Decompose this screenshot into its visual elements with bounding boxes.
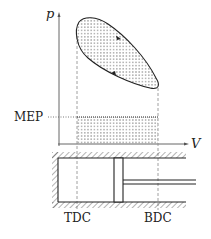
tdc-label: TDC bbox=[64, 211, 91, 225]
y-axis-label: p bbox=[46, 6, 55, 21]
bdc-label: BDC bbox=[144, 211, 172, 225]
mep-label: MEP bbox=[14, 110, 43, 124]
x-axis-label: V bbox=[191, 136, 202, 151]
pv-diagram: p V MEP TDC BDC bbox=[0, 0, 211, 239]
pv-loop bbox=[76, 18, 158, 89]
mep-rectangle bbox=[77, 117, 158, 144]
piston bbox=[114, 158, 123, 202]
piston-rod bbox=[123, 180, 196, 184]
y-axis bbox=[58, 12, 61, 146]
